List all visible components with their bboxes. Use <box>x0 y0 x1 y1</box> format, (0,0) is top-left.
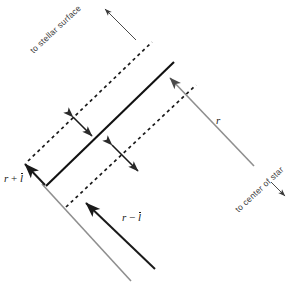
double-arrow-lower <box>112 145 138 171</box>
label-r-plus-l-bar: r + l <box>4 172 23 184</box>
black-arrow-r-minus-lbar <box>86 203 155 269</box>
gray-radius-arrow <box>170 78 254 166</box>
r-plus-l-bar-var: l <box>20 172 23 184</box>
label-r: r <box>216 114 220 126</box>
label-r-minus-l-bar: r − l <box>122 211 141 223</box>
double-arrow-upper <box>73 117 92 136</box>
to-center-of-star-arrow <box>271 182 285 196</box>
r-plus-operator: + <box>8 172 20 184</box>
to-stellar-surface-arrow <box>105 9 136 40</box>
radiative-transfer-diagram: to stellar surface to center of star r r… <box>0 0 299 292</box>
r-minus-l-bar-var: l <box>138 211 141 223</box>
r-minus-operator: − <box>126 211 138 223</box>
black-arrow-r-plus-lbar <box>25 164 45 185</box>
